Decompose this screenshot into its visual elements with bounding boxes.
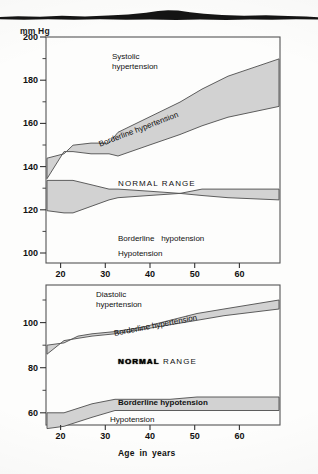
diastolic-normal-range-label: NORMAL RANGE	[118, 357, 197, 366]
diastolic-x-tick-50: 50	[185, 431, 205, 441]
diastolic-hypertension-label-line2: hypertension	[96, 300, 142, 309]
diastolic-y-tick-100: 100	[8, 318, 38, 328]
x-axis-caption: Age in years	[118, 448, 175, 458]
scanned-chart-page: mm Hg	[0, 0, 318, 474]
diastolic-y-tick-80: 80	[8, 363, 38, 373]
diastolic-normal-range-bold-part: NORMAL	[118, 357, 160, 366]
diastolic-y-tick-60: 60	[8, 408, 38, 418]
diastolic-x-tick-40: 40	[140, 431, 160, 441]
diastolic-hypertension-label-line1: Diastolic	[96, 290, 126, 299]
diastolic-x-tick-30: 30	[95, 431, 115, 441]
diastolic-hypotension-region-label: Hypotension	[110, 415, 154, 424]
x-axis-caption-word2: in	[139, 448, 147, 458]
x-axis-caption-word3: years	[152, 448, 175, 458]
diastolic-hypertension-region-label: Diastolic hypertension	[96, 290, 142, 310]
diastolic-normal-range-rest-part: RANGE	[163, 357, 197, 366]
diastolic-x-tick-20: 20	[51, 431, 71, 441]
diastolic-x-tick-60: 60	[229, 431, 249, 441]
diastolic-borderline-hypotension-band-label: Borderline hypotension	[118, 398, 208, 407]
x-axis-caption-word1: Age	[118, 448, 135, 458]
